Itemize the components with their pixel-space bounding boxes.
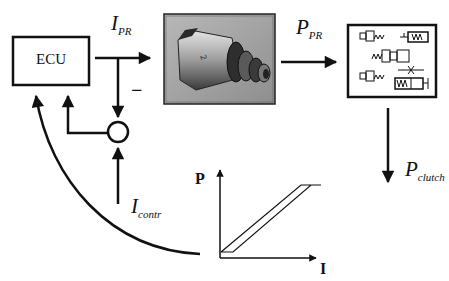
solenoid-photo: 2 [164, 14, 275, 104]
diagram-canvas: 2 [0, 0, 449, 281]
signal-label-pclutch: Pclutch [405, 159, 445, 180]
pclutch-main: P [405, 157, 418, 181]
hydraulic-valves-icon [348, 25, 436, 97]
error-signal-arrow [68, 96, 108, 133]
ppr-main: P [296, 15, 309, 39]
signal-label-ppr: PPR [296, 17, 322, 38]
ecu-label: ECU [13, 52, 89, 67]
control-loop-diagram: 2 [0, 0, 449, 281]
ipr-sub: PR [118, 25, 131, 37]
i-axis-label: I [320, 261, 326, 277]
signal-label-icontr: Icontr [131, 196, 161, 217]
pi-characteristic-plot [220, 170, 321, 258]
ipr-main: I [111, 11, 118, 35]
minus-sign: − [131, 80, 142, 100]
pclutch-sub: clutch [418, 171, 445, 183]
icontr-sub: contr [138, 208, 161, 220]
hysteresis-band [221, 185, 321, 252]
icontr-main: I [131, 194, 138, 218]
p-axis-label: P [195, 171, 205, 187]
signal-label-ipr: IPR [111, 13, 131, 34]
summing-junction [108, 122, 128, 142]
ppr-sub: PR [309, 29, 322, 41]
